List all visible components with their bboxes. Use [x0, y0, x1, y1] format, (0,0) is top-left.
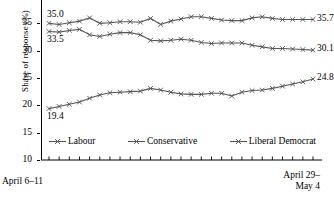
legend-marker-icon	[230, 137, 247, 146]
x-axis-end-label-line2: May 4	[283, 181, 320, 192]
y-tick-label: 10	[23, 155, 33, 165]
y-tick-label: 40	[23, 0, 33, 1]
y-tick-mark	[37, 105, 40, 106]
legend-item-labour[interactable]: Labour	[49, 136, 95, 146]
legend-label: Labour	[68, 136, 95, 146]
legend-item-liberal-democrat[interactable]: Liberal Democrat	[230, 136, 316, 146]
series-markers-labour	[47, 14, 316, 26]
y-tick-mark	[37, 51, 40, 52]
start-value-label-liberal-democrat: 19.4	[47, 112, 64, 122]
series-markers-liberal-democrat	[47, 77, 316, 111]
end-value-label-labour: 35.7	[317, 14, 334, 24]
y-tick-mark	[37, 78, 40, 79]
y-axis: Share of response (%) 10152025303540	[0, 0, 40, 197]
y-tick-mark	[37, 23, 40, 24]
legend-label: Liberal Democrat	[249, 136, 316, 146]
end-value-label-liberal-democrat: 24.8	[317, 73, 334, 83]
start-value-label-conservative: 33.5	[47, 35, 64, 45]
y-tick-mark	[37, 160, 40, 161]
legend-item-conservative[interactable]: Conservative	[128, 136, 197, 146]
y-tick-label: 25	[23, 73, 33, 83]
legend-label: Conservative	[147, 136, 197, 146]
start-value-label-labour: 35.0	[47, 10, 64, 20]
x-axis-end-label-line1: April 29–	[283, 170, 320, 181]
data-point-marker	[148, 16, 153, 21]
legend-marker-icon	[128, 137, 145, 146]
y-tick-mark	[37, 133, 40, 134]
y-tick-label: 20	[23, 100, 33, 110]
end-value-label-conservative: 30.1	[317, 44, 334, 54]
y-tick-label: 30	[23, 46, 33, 56]
legend-marker-icon	[49, 137, 66, 146]
x-axis-start-label: April 6–11	[2, 176, 43, 186]
x-axis-end-label: April 29– May 4	[283, 170, 320, 191]
chart-legend: Labour Conservative Liberal Democrat	[45, 133, 320, 149]
y-tick-label: 15	[23, 128, 33, 138]
y-tick-label: 35	[23, 18, 33, 28]
